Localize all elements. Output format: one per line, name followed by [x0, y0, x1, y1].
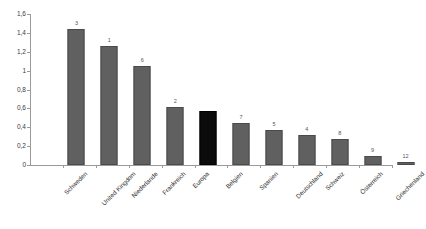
y-axis-tick-label: 1,4	[0, 28, 30, 38]
y-axis-tick-mark	[27, 165, 31, 166]
x-axis-tick-mark	[293, 165, 294, 168]
bar-schweden[interactable]	[68, 29, 85, 165]
bar-rank-label: 6	[141, 57, 144, 64]
bar-slot: 3	[60, 14, 93, 165]
x-axis-label-europa: Europa	[191, 170, 211, 190]
bar-slot: 1	[93, 14, 126, 165]
bar-rank-label: 8	[338, 130, 341, 137]
bar-slot: 6	[126, 14, 159, 165]
bar-spanien[interactable]	[265, 130, 282, 165]
x-axis-tick-mark	[162, 165, 163, 168]
bar-slot: 5	[257, 14, 290, 165]
bar-united-kingdom[interactable]	[101, 46, 118, 165]
x-axis-tick-mark	[260, 165, 261, 168]
x-axis-label-griechenland: Griechenland	[394, 170, 426, 202]
bar-slot: 2	[159, 14, 192, 165]
x-axis-line	[30, 165, 392, 166]
bar-slot	[192, 14, 225, 165]
x-axis-label-frankreich: Frankreich	[161, 170, 188, 197]
x-axis-label-spanien: Spanien	[258, 170, 280, 192]
bar-osterreich[interactable]	[364, 156, 381, 165]
x-axis-label-belgien: Belgien	[224, 170, 245, 191]
bar-deutschland[interactable]	[298, 135, 315, 165]
bar-slot: 8	[323, 14, 356, 165]
x-axis-tick-mark	[195, 165, 196, 168]
bar-europa[interactable]	[200, 111, 217, 165]
x-axis-tick-mark	[326, 165, 327, 168]
y-axis-tick-label: 0,8	[0, 85, 30, 95]
plot-area: 31627548912	[30, 14, 392, 165]
y-axis-tick-label: 0,2	[0, 141, 30, 151]
x-axis-tick-mark	[129, 165, 130, 168]
y-axis-tick-label: 0	[0, 160, 30, 170]
x-axis-label-united-kingdom: United Kingdom	[100, 170, 137, 207]
bar-rank-label: 12	[402, 153, 408, 160]
x-axis-tick-mark	[227, 165, 228, 168]
bar-slot: 4	[290, 14, 323, 165]
bar-rank-label: 4	[305, 126, 308, 133]
x-axis-tick-mark	[359, 165, 360, 168]
y-axis-tick-label: 1,2	[0, 47, 30, 57]
bar-slot: 7	[225, 14, 258, 165]
bar-frankreich[interactable]	[167, 107, 184, 165]
y-axis-tick-label: 0,4	[0, 122, 30, 132]
bar-belgien[interactable]	[232, 123, 249, 165]
x-axis-tick-mark	[392, 165, 393, 168]
x-axis-label-osterreich: Österreich	[358, 170, 384, 196]
bar-niederlande[interactable]	[134, 66, 151, 165]
bar-griechenland[interactable]	[397, 162, 414, 165]
x-axis-tick-mark	[96, 165, 97, 168]
x-axis-label-schweden: Schweden	[62, 170, 88, 196]
x-axis-label-deutschland: Deutschland	[294, 170, 324, 200]
y-axis-tick-label: 1,6	[0, 9, 30, 19]
bar-rank-label: 2	[174, 98, 177, 105]
bar-rank-label: 5	[272, 121, 275, 128]
y-axis-tick-label: 0,6	[0, 103, 30, 113]
x-axis-label-schweiz: Schweiz	[324, 170, 346, 192]
bar-slot: 9	[356, 14, 389, 165]
bar-rank-label: 1	[108, 37, 111, 44]
bar-schweiz[interactable]	[331, 139, 348, 165]
y-axis-tick-label: 1	[0, 66, 30, 76]
x-axis-tick-mark	[63, 165, 64, 168]
bar-rank-label: 3	[75, 20, 78, 27]
bar-slot: 12	[389, 14, 422, 165]
bar-rank-label: 7	[239, 114, 242, 121]
bar-rank-label: 9	[371, 147, 374, 154]
